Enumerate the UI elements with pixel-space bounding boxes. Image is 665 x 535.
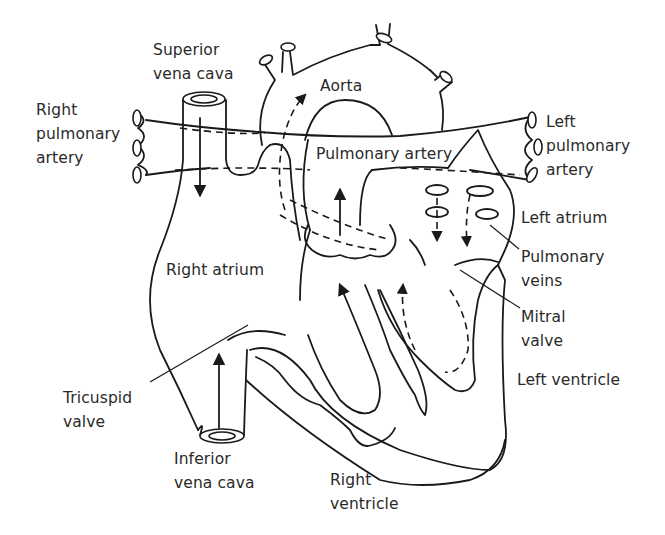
label-left-pulmonary-artery: Left pulmonary artery	[546, 110, 630, 182]
pulmonary-artery-shape	[133, 110, 542, 259]
label-inferior-vena-cava: Inferior vena cava	[174, 447, 255, 495]
label-aorta: Aorta	[320, 74, 362, 98]
right-atrium-shape	[228, 230, 310, 340]
label-pulmonary-artery: Pulmonary artery	[316, 142, 452, 166]
label-right-ventricle: Right ventricle	[330, 468, 399, 516]
label-left-ventricle: Left ventricle	[517, 368, 620, 392]
aorta-shape	[258, 24, 454, 210]
label-tricuspid-valve: Tricuspid valve	[63, 386, 132, 434]
label-right-atrium: Right atrium	[166, 258, 264, 282]
ventricles-shape	[246, 265, 506, 485]
label-mitral-valve: Mitral valve	[521, 305, 566, 353]
heart-diagram: Superior vena cava Aorta Right pulmonary…	[0, 0, 665, 535]
label-superior-vena-cava: Superior vena cava	[153, 38, 234, 86]
inferior-vena-cava-shape	[198, 350, 247, 443]
label-pulmonary-veins: Pulmonary veins	[521, 245, 605, 293]
label-right-pulmonary-artery: Right pulmonary artery	[36, 98, 120, 170]
label-left-atrium: Left atrium	[521, 206, 607, 230]
